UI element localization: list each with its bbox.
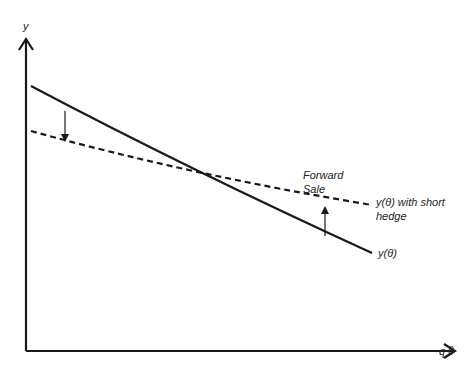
y-axis — [19, 39, 33, 351]
x-axis-label: q θ — [439, 344, 454, 358]
hedging-diagram: y q θ Forward Sale y(θ) with short hedge… — [0, 0, 467, 372]
hedged-curve-label-2: hedge — [376, 210, 407, 222]
annotation-line2: Sale — [303, 183, 325, 195]
hedged-curve-label-1: y(θ) with short — [375, 196, 446, 208]
down-arrow-icon — [61, 111, 69, 142]
x-axis — [26, 344, 455, 358]
y-axis-label: y — [22, 20, 30, 32]
unhedged-curve-label: y(θ) — [377, 247, 397, 259]
annotation-line1: Forward — [303, 169, 344, 181]
